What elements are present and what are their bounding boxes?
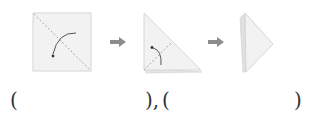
step-2-triangle-paper <box>140 10 206 76</box>
right-arrow-icon <box>207 36 225 48</box>
answer-row: ( ), ( ) <box>0 88 314 112</box>
answer-1-open-paren: ( <box>10 88 18 112</box>
step-3-folded-paper <box>236 10 276 76</box>
answer-2-close-paren: ) <box>294 88 302 112</box>
answer-2-blank[interactable] <box>175 88 290 112</box>
right-arrow-icon <box>109 36 127 48</box>
answer-1-blank[interactable] <box>22 88 142 112</box>
folded-triangle <box>245 13 273 72</box>
answer-1-close-paren: ), <box>145 88 159 112</box>
answer-2-open-paren: ( <box>162 88 170 112</box>
step-1-square-paper <box>30 10 96 76</box>
